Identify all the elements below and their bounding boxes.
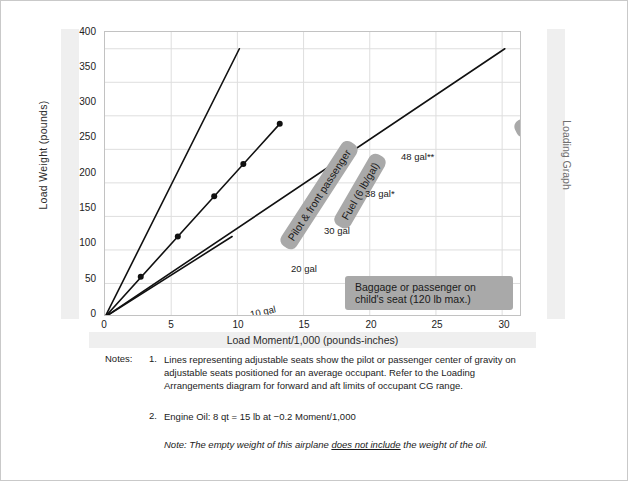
plot-area: Pilot & front passenger Fuel (6 lb/gal) … [104, 31, 521, 316]
x-tick-30: 30 [489, 319, 519, 330]
y-tick-100: 100 [62, 237, 96, 248]
y-tick-250: 250 [62, 131, 96, 142]
x-tick-5: 5 [156, 319, 186, 330]
x-tick-25: 25 [422, 319, 452, 330]
y-tick-200: 200 [62, 167, 96, 178]
sheet-title-loading-graph: Loading Graph [561, 95, 573, 215]
note-2-text: Engine Oil: 8 qt = 15 lb at −0.2 Moment/… [164, 410, 534, 423]
notes-label: Notes: [105, 353, 132, 364]
note-1-number: 1. [149, 353, 157, 364]
y-tick-300: 300 [62, 96, 96, 107]
note-1-text: Lines representing adjustable seats show… [164, 353, 534, 393]
note-3-italic-text: Note: The empty weight of this airplane … [164, 438, 534, 451]
y-tick-50: 50 [62, 273, 96, 284]
y-tick-150: 150 [62, 202, 96, 213]
loading-graph-page: Load Weight (pounds) Loading Graph 400 3… [0, 0, 628, 481]
x-tick-0: 0 [89, 319, 119, 330]
x-tick-20: 20 [356, 319, 386, 330]
y-tick-0: 0 [62, 308, 96, 319]
fuel-label-20gal: 20 gal [291, 263, 317, 274]
note-3-underlined: does not include [331, 439, 400, 450]
x-tick-15: 15 [289, 319, 319, 330]
x-tick-10: 10 [223, 319, 253, 330]
y-tick-350: 350 [62, 61, 96, 72]
note-3-suffix: the weight of the oil. [401, 439, 488, 450]
y-axis-title: Load Weight (pounds) [37, 95, 49, 215]
y-tick-400: 400 [62, 26, 96, 37]
fuel-label-48gal: 48 gal** [401, 151, 434, 162]
fuel-label-38gal: 38 gal* [365, 188, 395, 199]
note-3-prefix: Note: The empty weight of this airplane [164, 439, 331, 450]
x-axis-title: Load Moment/1,000 (pounds-inches) [104, 334, 521, 346]
label-baggage-child-seat: Baggage or passenger on child's seat (12… [345, 276, 513, 310]
note-2-number: 2. [149, 410, 157, 421]
fuel-label-30gal: 30 gal [324, 225, 350, 236]
